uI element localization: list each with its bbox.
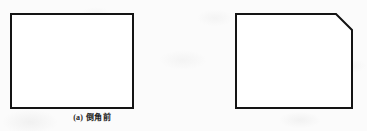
figure-plate: (a)倒角前 (b)倒角后 — [0, 0, 367, 131]
plain-rectangle-drawing — [0, 0, 184, 113]
figure-panel-a: (a)倒角前 — [0, 0, 184, 131]
caption-a-label: 倒角前 — [86, 113, 111, 122]
caption-a-tag: (a) — [73, 113, 83, 122]
caption-a: (a)倒角前 — [0, 113, 184, 123]
figure-panel-b: (b)倒角后 — [184, 0, 367, 131]
chamfered-rectangle-drawing — [184, 0, 367, 113]
plain-rectangle-outline — [11, 14, 133, 108]
chamfered-rectangle-outline — [236, 14, 352, 108]
